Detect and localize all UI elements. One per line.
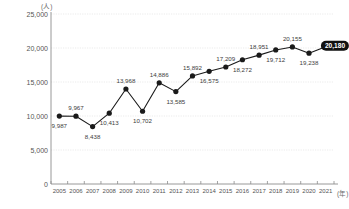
data-point-label: 8,438 <box>85 132 100 139</box>
data-point-label: 18,272 <box>233 65 252 72</box>
data-point-label: 18,951 <box>250 43 269 50</box>
x-tick-label: 2007 <box>86 188 99 194</box>
y-tick-label: 10,000 <box>27 113 48 120</box>
line-chart: (人) (年) 05,00010,00015,00020,00025,000 2… <box>0 0 349 209</box>
x-tick-label: 2016 <box>236 188 249 194</box>
x-tick-label: 2017 <box>252 188 265 194</box>
x-tick-label: 2006 <box>69 188 82 194</box>
x-tick-label: 2018 <box>269 188 282 194</box>
y-tick-label: 5,000 <box>30 147 48 154</box>
x-tick-label: 2019 <box>286 188 299 194</box>
x-tick-label: 2015 <box>219 188 232 194</box>
x-tick-label: 2009 <box>119 188 132 194</box>
data-point-label: 20,155 <box>283 34 302 41</box>
y-tick-label: 25,000 <box>27 11 48 18</box>
y-axis-unit-label: (人) <box>41 1 52 11</box>
data-point-label: 13,968 <box>116 77 135 84</box>
data-point-label: 19,238 <box>300 59 319 66</box>
y-tick-label: 0 <box>44 181 48 188</box>
x-tick-label: 2005 <box>53 188 66 194</box>
x-tick-label: 2010 <box>136 188 149 194</box>
highlighted-value-badge: 20,180 <box>321 40 349 51</box>
data-line <box>59 47 325 127</box>
x-tick-label: 2012 <box>169 188 182 194</box>
x-tick-label: 2013 <box>186 188 199 194</box>
data-point-label: 10,702 <box>133 117 152 124</box>
y-tick-label: 20,000 <box>27 45 48 52</box>
y-tick-label: 15,000 <box>27 79 48 86</box>
x-tick-label: 2020 <box>302 188 315 194</box>
data-point-label: 15,892 <box>183 63 202 70</box>
data-point-label: 14,886 <box>150 70 169 77</box>
data-point-label: 19,712 <box>266 55 285 62</box>
chart-plot-area <box>0 0 349 209</box>
data-point-label: 9,987 <box>52 122 67 129</box>
data-point-label: 17,209 <box>216 54 235 61</box>
data-point-markers <box>57 44 329 129</box>
x-axis-unit-label: (年) <box>337 188 348 198</box>
x-tick-label: 2021 <box>319 188 332 194</box>
data-point-label: 13,585 <box>166 97 185 104</box>
x-tick-label: 2014 <box>202 188 215 194</box>
data-point-label: 10,413 <box>100 119 119 126</box>
x-tick-label: 2011 <box>153 188 166 194</box>
data-point-label: 16,575 <box>200 77 219 84</box>
data-point-label: 9,967 <box>68 104 83 111</box>
x-tick-label: 2008 <box>103 188 116 194</box>
